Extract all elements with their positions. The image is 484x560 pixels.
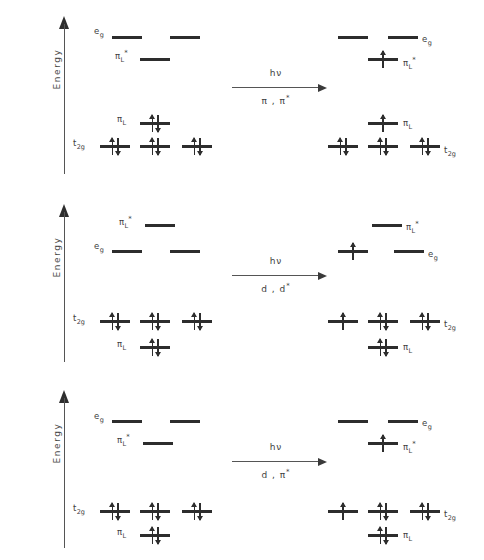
right-state-group: πL*egt2gπL	[0, 188, 484, 374]
orbital-level-t2g-right-3	[410, 510, 440, 513]
electron-up-arrow	[380, 313, 382, 330]
right-state-group: egπL*t2gπL	[0, 374, 484, 560]
transition-type-label: d , d*	[232, 282, 320, 294]
transition-arrowhead-icon	[318, 84, 327, 92]
orbital-diagram-page: { "figure": { "axis_label": "Energy", "t…	[0, 0, 484, 560]
electron-up-arrow	[340, 138, 342, 155]
electron-down-arrow	[385, 527, 387, 544]
photon-label: hν	[232, 256, 320, 266]
orbital-level-piL-r	[368, 534, 398, 537]
transition-type-label: d , π*	[232, 468, 320, 480]
transition-arrow-line	[232, 461, 320, 462]
electron-up-arrow	[352, 243, 354, 260]
label-piL-star-r: πL*	[406, 220, 419, 235]
electron-down-arrow	[427, 313, 429, 330]
label-t2g-r: t2g	[444, 319, 456, 332]
orbital-level-t2g-right-2	[368, 145, 398, 148]
orbital-level-t2g-right-1	[328, 510, 358, 513]
electron-down-arrow	[427, 503, 429, 520]
electron-down-arrow	[385, 503, 387, 520]
label-eg-r: eg	[428, 249, 438, 262]
electron-up-arrow	[422, 503, 424, 520]
orbital-level-piL-star-r	[368, 58, 398, 61]
label-eg-r: eg	[422, 418, 432, 431]
electron-down-arrow	[385, 138, 387, 155]
orbital-level-piL-star-r	[368, 442, 398, 445]
electron-down-arrow	[385, 313, 387, 330]
panel-pi-pi-star: EnergyegπL*πLt2gegπL*πLt2ghνπ , π*	[0, 0, 484, 186]
label-piL-star-r: πL*	[403, 56, 416, 71]
electron-up-arrow	[422, 313, 424, 330]
electron-down-arrow	[385, 339, 387, 356]
transition-arrow-line	[232, 87, 320, 88]
orbital-level-eg-right-1	[338, 36, 368, 39]
orbital-level-t2g-right-1	[328, 320, 358, 323]
electron-up-arrow	[380, 503, 382, 520]
transition-arrowhead-icon	[318, 272, 327, 280]
transition-arrowhead-icon	[318, 458, 327, 466]
photon-label: hν	[232, 442, 320, 452]
label-eg-r: eg	[422, 34, 432, 47]
electron-up-arrow	[422, 138, 424, 155]
orbital-level-eg-right-1	[338, 420, 368, 423]
electron-up-arrow	[382, 51, 384, 68]
orbital-level-piL-r	[368, 346, 398, 349]
electron-down-arrow	[345, 138, 347, 155]
label-piL-r: πL	[403, 118, 412, 131]
electron-up-arrow	[382, 115, 384, 132]
electron-up-arrow	[380, 339, 382, 356]
orbital-level-piL-r	[368, 122, 398, 125]
electron-up-arrow	[380, 527, 382, 544]
electron-up-arrow	[380, 138, 382, 155]
right-state-group: egπL*πLt2g	[0, 0, 484, 186]
electron-down-arrow	[427, 138, 429, 155]
orbital-level-piL-star-r	[372, 224, 402, 227]
orbital-level-t2g-right-2	[368, 510, 398, 513]
electron-up-arrow	[382, 435, 384, 452]
orbital-level-eg-right-2	[388, 36, 418, 39]
label-t2g-r: t2g	[444, 509, 456, 522]
photon-label: hν	[232, 68, 320, 78]
orbital-level-t2g-right-3	[410, 145, 440, 148]
orbital-level-t2g-right-1	[328, 145, 358, 148]
panel-d-d-star: EnergyπL*egt2gπLπL*egt2gπLhνd , d*	[0, 188, 484, 374]
orbital-level-eg-right-2	[388, 420, 418, 423]
label-piL-star-r: πL*	[403, 440, 416, 455]
orbital-level-t2g-right-2	[368, 320, 398, 323]
panel-d-pi-star: EnergyegπL*t2gπLegπL*t2gπLhνd , π*	[0, 374, 484, 560]
label-piL-r: πL	[403, 530, 412, 543]
orbital-level-t2g-right-3	[410, 320, 440, 323]
electron-up-arrow	[342, 503, 344, 520]
transition-type-label: π , π*	[232, 94, 320, 106]
electron-up-arrow	[342, 313, 344, 330]
transition-arrow-line	[232, 275, 320, 276]
label-piL-r: πL	[403, 342, 412, 355]
label-t2g-r: t2g	[444, 145, 456, 158]
orbital-level-eg-right-1	[338, 250, 368, 253]
orbital-level-eg-right-2	[394, 250, 424, 253]
